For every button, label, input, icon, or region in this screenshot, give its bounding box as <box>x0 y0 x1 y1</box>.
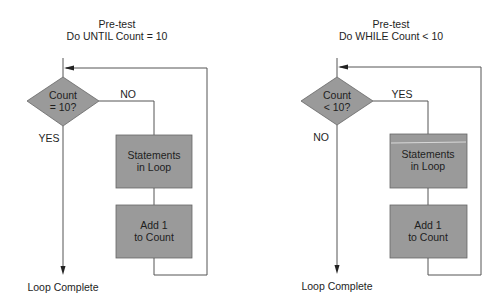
right-title-line2: Do WHILE Count < 10 <box>339 30 443 42</box>
left-box1-line2: in Loop <box>137 161 172 173</box>
right-flowchart: Pre-test Do WHILE Count < 10 Count < 10?… <box>301 18 481 292</box>
left-loopback-arrow-icon <box>64 66 74 71</box>
left-box1-line1: Statements <box>127 149 180 161</box>
left-box2-line2: to Count <box>134 231 174 243</box>
left-box2-line1: Add 1 <box>140 219 168 231</box>
left-branch-right-line <box>99 101 154 135</box>
right-branch-right-label: YES <box>391 88 412 100</box>
right-box1-line1: Statements <box>401 148 454 160</box>
right-box2-line2: to Count <box>408 231 448 243</box>
right-box1-line2: in Loop <box>411 160 446 172</box>
right-branch-right-line <box>373 101 428 134</box>
right-title-line1: Pre-test <box>373 18 410 30</box>
right-decision-line1: Count <box>323 89 351 101</box>
left-decision-line2: = 10? <box>50 101 77 113</box>
left-title-line2: Do UNTIL Count = 10 <box>67 30 168 42</box>
right-box2-line1: Add 1 <box>414 219 442 231</box>
right-exit-arrow-icon <box>335 265 340 274</box>
left-branch-right-label: NO <box>120 88 136 100</box>
left-title-line1: Pre-test <box>99 18 136 30</box>
left-decision-line1: Count <box>49 89 77 101</box>
right-branch-down-label: NO <box>313 131 329 143</box>
left-end-label: Loop Complete <box>27 281 98 293</box>
left-branch-down-label: YES <box>38 132 59 144</box>
left-flowchart: Pre-test Do UNTIL Count = 10 Count = 10?… <box>27 18 207 293</box>
left-exit-arrow-icon <box>61 266 66 275</box>
flowchart-canvas: Pre-test Do UNTIL Count = 10 Count = 10?… <box>0 0 499 308</box>
right-decision-line2: < 10? <box>324 101 351 113</box>
right-loopback-arrow-icon <box>338 65 348 70</box>
right-end-label: Loop Complete <box>301 280 372 292</box>
